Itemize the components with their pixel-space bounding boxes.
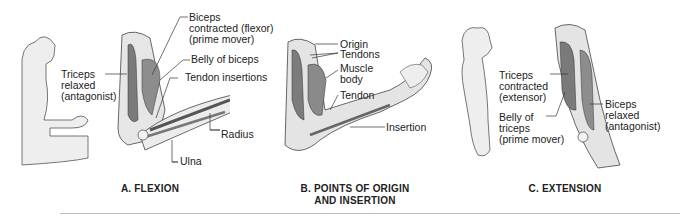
label-muscle-body: Muscle body bbox=[340, 63, 373, 85]
label-tendon: Tendon bbox=[340, 90, 374, 101]
caption-origin-insertion: B. POINTS OF ORIGIN AND INSERTION bbox=[290, 183, 420, 207]
label-biceps-relaxed: Biceps relaxed (antagonist) bbox=[605, 99, 660, 132]
panel-extension: Triceps contracted (extensor) Belly of t… bbox=[450, 0, 680, 218]
label-triceps-relaxed: Triceps relaxed (antagonist) bbox=[61, 69, 116, 102]
label-tendons: Tendons bbox=[340, 49, 380, 60]
label-triceps-contracted: Triceps contracted (extensor) bbox=[499, 70, 548, 103]
label-belly-of-triceps: Belly of triceps (prime mover) bbox=[499, 112, 564, 145]
label-ulna: Ulna bbox=[180, 156, 202, 167]
panel-flexion: Biceps contracted (flexor) (prime mover)… bbox=[0, 0, 230, 218]
label-insertion: Insertion bbox=[386, 122, 426, 133]
caption-extension: C. EXTENSION bbox=[520, 183, 610, 195]
bottom-divider bbox=[60, 213, 680, 214]
body-silhouette-icon bbox=[462, 28, 492, 156]
caption-flexion: A. FLEXION bbox=[110, 183, 190, 195]
panel-origin-insertion: Origin Tendons Muscle body Tendon Insert… bbox=[230, 0, 460, 218]
